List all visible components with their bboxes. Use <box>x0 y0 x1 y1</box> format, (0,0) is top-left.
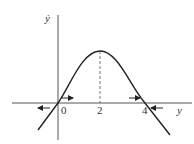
y-axis-label: ẏ <box>44 12 50 24</box>
x-axis-label: y <box>176 104 182 116</box>
tick-0: 0 <box>61 104 67 116</box>
tick-2: 2 <box>97 104 103 116</box>
tick-4: 4 <box>142 104 148 116</box>
phase-line-plot: ẏ y 0 2 4 <box>0 0 194 144</box>
